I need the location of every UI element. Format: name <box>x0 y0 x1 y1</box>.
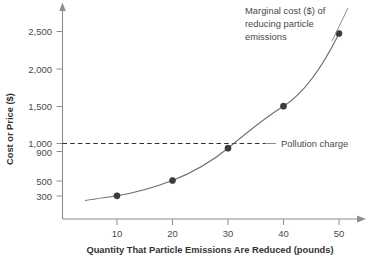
chart-background <box>0 0 373 256</box>
emissions-cost-chart: 2,500 2,000 1,500 1,000 900 500 300 10 2… <box>0 0 373 256</box>
y-axis-title: Cost or Price ($) <box>5 93 15 165</box>
x-tick-label-30: 30 <box>223 228 234 239</box>
y-tick-label-1500: 1,500 <box>28 101 52 112</box>
x-tick-label-10: 10 <box>112 228 123 239</box>
data-point-30 <box>225 145 231 151</box>
chart-container: 2,500 2,000 1,500 1,000 900 500 300 10 2… <box>0 0 373 256</box>
x-tick-label-20: 20 <box>167 228 178 239</box>
x-tick-label-40: 40 <box>278 228 289 239</box>
y-tick-label-300: 300 <box>36 191 52 202</box>
y-tick-label-500: 500 <box>36 176 52 187</box>
data-point-10 <box>114 193 120 199</box>
data-point-40 <box>280 103 286 109</box>
curve-label-line-2: reducing particle <box>245 18 314 29</box>
data-point-20 <box>169 177 175 183</box>
y-tick-label-2000: 2,000 <box>28 64 52 75</box>
curve-label-line-3: emissions <box>245 31 287 42</box>
pollution-charge-label: Pollution charge <box>281 138 348 149</box>
y-tick-label-2500: 2,500 <box>28 26 52 37</box>
y-tick-label-900: 900 <box>36 147 52 158</box>
x-tick-label-50: 50 <box>334 228 345 239</box>
x-axis-title: Quantity That Particle Emissions Are Red… <box>86 245 333 255</box>
curve-label-line-1: Marginal cost ($) of <box>245 5 326 16</box>
